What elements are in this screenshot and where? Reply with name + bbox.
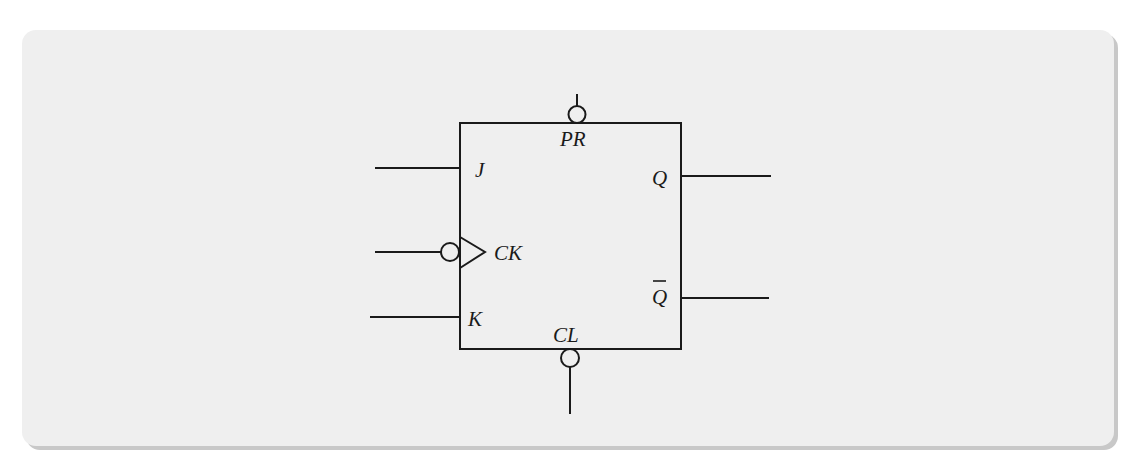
flip-flop-block: [460, 123, 681, 349]
clock-edge-triangle-icon: [460, 237, 485, 268]
clear-pin: [561, 349, 579, 414]
j-label: J: [475, 158, 486, 182]
k-label: K: [467, 307, 483, 331]
clock-inversion-bubble-icon: [441, 243, 459, 261]
clock-pin: [375, 237, 485, 268]
preset-pin: [569, 94, 586, 123]
clock-label: CK: [494, 241, 523, 265]
preset-inversion-bubble-icon: [569, 106, 586, 123]
clear-inversion-bubble-icon: [561, 349, 579, 367]
clear-label: CL: [553, 323, 579, 347]
preset-label: PR: [559, 127, 586, 151]
q-bar-label: Q: [652, 285, 667, 309]
q-label: Q: [652, 166, 667, 190]
jk-flip-flop-diagram: PR J CK K CL Q Q: [0, 0, 1145, 473]
